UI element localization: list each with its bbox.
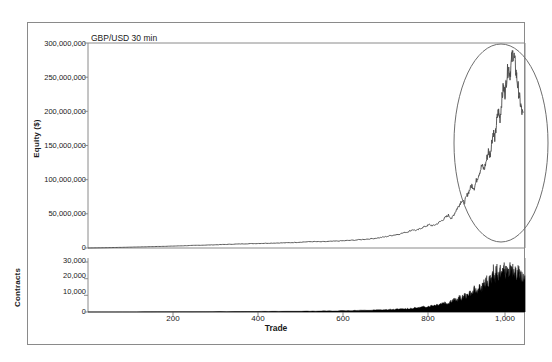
contracts-tick-marks bbox=[84, 262, 88, 312]
highlight-ellipse bbox=[454, 44, 548, 242]
x-tick-marks bbox=[173, 312, 505, 316]
equity-curve bbox=[88, 51, 523, 248]
chart-figure: GBP/USD 30 min Equity ($) Contracts Trad… bbox=[0, 0, 552, 362]
plot-canvas bbox=[0, 0, 552, 362]
equity-tick-marks bbox=[84, 43, 88, 248]
contracts-area bbox=[88, 262, 525, 312]
